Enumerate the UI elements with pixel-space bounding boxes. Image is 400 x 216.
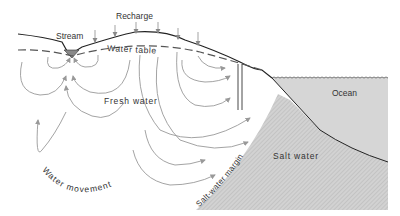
coastal-aquifer-diagram: Recharge Stream Water table Fresh water … [0, 0, 400, 216]
well [238, 64, 242, 110]
label-fresh-water: Fresh water [104, 96, 158, 106]
label-water-table: Water table [107, 43, 157, 56]
label-salt-water: Salt water [273, 151, 319, 161]
label-stream: Stream [56, 31, 83, 41]
label-recharge: Recharge [116, 11, 153, 21]
flow-lines [20, 52, 250, 185]
label-ocean: Ocean [332, 88, 357, 98]
label-water-movement: Water movement [40, 165, 113, 195]
recharge-arrows [95, 22, 198, 45]
